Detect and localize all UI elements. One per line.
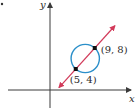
- point-label-9-8: (9, 8): [101, 44, 128, 55]
- x-axis-label: x: [129, 93, 135, 104]
- point-label-5-4: (5, 4): [70, 74, 97, 85]
- y-axis-label: y: [39, 0, 46, 10]
- coordinate-diagram: y x (5, 4) (9, 8): [0, 0, 136, 108]
- point-5-4: [74, 67, 78, 71]
- point-9-8: [93, 46, 97, 50]
- bullet-dot: [1, 3, 3, 5]
